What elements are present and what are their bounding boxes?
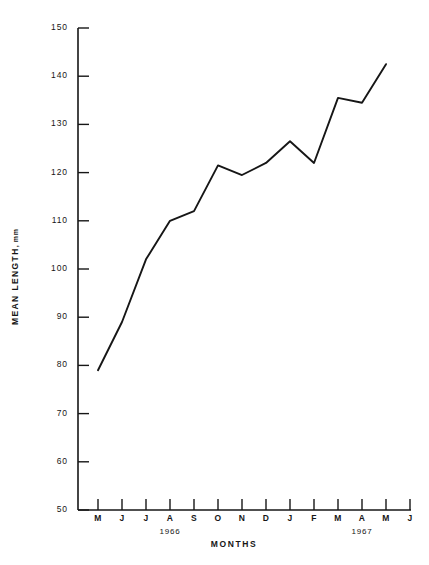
x-tick-label: N bbox=[234, 513, 250, 523]
y-axis-ticks bbox=[78, 28, 89, 510]
data-series-group bbox=[98, 64, 386, 370]
x-tick-label: O bbox=[210, 513, 226, 523]
y-tick-label: 70 bbox=[42, 408, 68, 418]
y-tick-label: 150 bbox=[42, 22, 68, 32]
x-tick-label: M bbox=[378, 513, 394, 523]
y-axis-title-text: MEAN LENGTH bbox=[10, 247, 20, 325]
x-tick-label: J bbox=[282, 513, 298, 523]
y-tick-label: 60 bbox=[42, 456, 68, 466]
x-axis-ticks bbox=[98, 499, 410, 510]
y-tick-label: 100 bbox=[42, 263, 68, 273]
x-tick-label: M bbox=[90, 513, 106, 523]
y-tick-label: 50 bbox=[42, 504, 68, 514]
x-tick-label: A bbox=[162, 513, 178, 523]
x-tick-label: D bbox=[258, 513, 274, 523]
chart-figure: MEAN LENGTH, mm 150140130120110100908070… bbox=[0, 0, 429, 565]
year-label: 1966 bbox=[150, 527, 190, 536]
x-tick-label: J bbox=[138, 513, 154, 523]
x-tick-label: J bbox=[114, 513, 130, 523]
y-tick-label: 110 bbox=[42, 215, 68, 225]
x-axis-title: MONTHS bbox=[174, 539, 294, 549]
year-label: 1967 bbox=[342, 527, 382, 536]
y-axis-title: MEAN LENGTH, mm bbox=[10, 185, 30, 325]
y-tick-label: 90 bbox=[42, 311, 68, 321]
x-tick-label: A bbox=[354, 513, 370, 523]
line-chart-plot bbox=[0, 0, 429, 565]
x-tick-label: M bbox=[330, 513, 346, 523]
x-tick-label: F bbox=[306, 513, 322, 523]
y-axis-title-unit: , mm bbox=[12, 229, 19, 248]
axes-group bbox=[78, 28, 411, 510]
y-tick-label: 140 bbox=[42, 70, 68, 80]
x-tick-label: J bbox=[402, 513, 418, 523]
data-line-mean-length bbox=[98, 64, 386, 370]
y-tick-label: 130 bbox=[42, 118, 68, 128]
x-tick-label: S bbox=[186, 513, 202, 523]
y-tick-label: 120 bbox=[42, 167, 68, 177]
y-tick-label: 80 bbox=[42, 359, 68, 369]
